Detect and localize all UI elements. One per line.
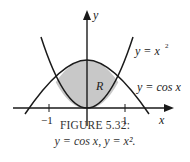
region-r-label: R [95, 79, 104, 93]
parabola-label: y = x 2 [134, 42, 169, 58]
x-axis-arrow-icon [164, 104, 174, 112]
figure-caption-title: FIGURE 5.32: [0, 119, 190, 131]
svg-text:2: 2 [165, 42, 169, 50]
svg-text:y = x: y = x [134, 44, 160, 58]
y-axis-arrow-icon [83, 10, 91, 20]
y-axis-label: y [92, 8, 99, 22]
cosine-label: y = cos x [136, 80, 181, 94]
figure-caption-subtitle: y = cos x, y = x². [0, 134, 190, 149]
